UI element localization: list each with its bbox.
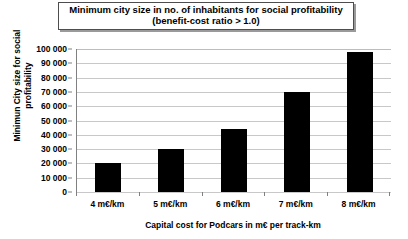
x-axis-tick-label: 5 m€/km (153, 199, 187, 209)
x-axis-tick-mark (327, 192, 328, 196)
x-axis-tick-label: 8 m€/km (342, 199, 376, 209)
x-axis-tick-labels: 4 m€/km5 m€/km6 m€/km7 m€/km8 m€/km (76, 199, 390, 213)
y-axis-tick-mark (68, 177, 72, 178)
y-axis-tick-labels: 100 00090 00080 00070 00060 00050 00040 … (0, 49, 72, 192)
y-axis-tick-mark (68, 91, 72, 92)
y-axis-tick-label: 90 000 (41, 58, 67, 68)
y-axis-tick-mark (68, 106, 72, 107)
y-axis-tick-label: 80 000 (41, 73, 67, 83)
chart-title-line-2: (benefit-cost ratio > 1.0) (152, 16, 259, 27)
y-axis-tick-label: 30 000 (41, 144, 67, 154)
y-axis-tick-mark (68, 134, 72, 135)
y-axis-tick-label: 70 000 (41, 87, 67, 97)
y-axis-tick-label: 60 000 (41, 101, 67, 111)
y-axis-tick-mark (68, 192, 72, 193)
x-axis-tick-mark (76, 192, 77, 196)
y-axis-tick-label: 100 000 (36, 44, 67, 54)
x-axis-tick-mark (202, 192, 203, 196)
bar (284, 92, 310, 192)
chart-title: Minimum city size in no. of inhabitants … (58, 2, 354, 30)
x-axis-tick-mark (264, 192, 265, 196)
x-axis-tick-label: 7 m€/km (279, 199, 313, 209)
x-axis-tick-mark (139, 192, 140, 196)
bar (95, 163, 121, 192)
plot-area (76, 49, 391, 193)
y-axis-tick-mark (68, 163, 72, 164)
x-axis-tick-marks (76, 192, 390, 197)
y-axis-tick-mark (68, 63, 72, 64)
bar (221, 129, 247, 192)
y-axis-tick-label: 40 000 (41, 130, 67, 140)
y-axis-tick-mark (68, 120, 72, 121)
bar-chart: Minimum city size in no. of inhabitants … (0, 0, 408, 239)
y-axis-tick-label: 20 000 (41, 158, 67, 168)
bars-layer (77, 49, 391, 192)
y-axis-tick-mark (68, 49, 72, 50)
y-axis-tick-label: 0 (62, 187, 67, 197)
y-axis-tick-label: 50 000 (41, 116, 67, 126)
y-axis-tick-mark (68, 149, 72, 150)
bar (347, 52, 373, 192)
x-axis-tick-label: 6 m€/km (216, 199, 250, 209)
bar (158, 149, 184, 192)
y-axis-tick-label: 10 000 (41, 173, 67, 183)
x-axis-title: Capital cost for Podcars in m€ per track… (76, 220, 390, 230)
x-axis-tick-mark (389, 192, 390, 196)
y-axis-tick-mark (68, 77, 72, 78)
x-axis-tick-label: 4 m€/km (90, 199, 124, 209)
